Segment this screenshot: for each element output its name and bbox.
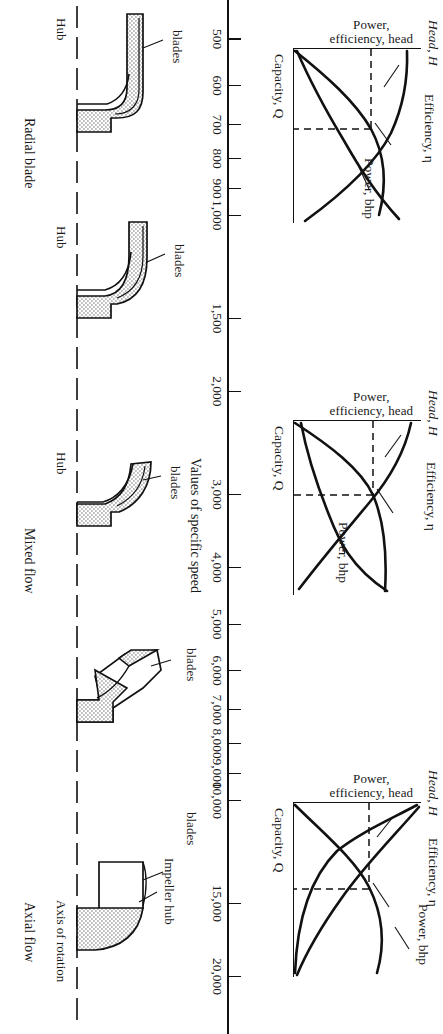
head-leader [377, 817, 393, 837]
blades-leader-r1 [143, 40, 163, 48]
blades-label-axial: blades [183, 812, 199, 845]
flow-label-mixed: Mixed flow [21, 528, 37, 594]
chart-mixed-flow: Power, efficiency, head Capacity, Q Head… [253, 382, 443, 612]
power-label-radial: Power, bhp [361, 158, 377, 219]
blades-label-mixed-1: blades [167, 466, 183, 499]
axis-tick-1500 [229, 318, 241, 319]
axis-tick-label-20000: 20,000 [209, 958, 225, 995]
axis-tick-label-3000: 3,000 [209, 479, 225, 509]
plot-area-radial [293, 48, 421, 223]
power-label-mixed: Power, bhp [335, 522, 351, 583]
axis-line [227, 0, 229, 1034]
x-axis-label-radial: Capacity, Q [271, 54, 287, 119]
axis-tick-600 [229, 85, 241, 86]
axis-tick-label-6000: 6,000 [209, 655, 225, 685]
axis-tick-label-8000: 8,000 [209, 728, 225, 758]
figure-root: Power, efficiency, head Capacity, Q Head… [0, 0, 443, 1034]
axis-tick-1000 [229, 215, 241, 216]
power-curve [297, 807, 419, 975]
flow-label-axial: Axial flow [21, 902, 37, 962]
chart-radial-blade: Power, efficiency, head Capacity, Q Head… [253, 10, 443, 240]
blades-label-mixed-2: blades [183, 648, 199, 681]
head-label-mixed: Head, H [425, 390, 441, 436]
axis-tick-label-1000: 1,000 [209, 200, 225, 230]
axis-tick-label-10000: 10,000 [209, 782, 225, 819]
axis-tick-label-600: 600 [209, 75, 225, 95]
plot-area-axial [293, 802, 421, 977]
plot-area-mixed [293, 420, 421, 595]
axis-tick-label-1500: 1,500 [209, 303, 225, 333]
axis-tick-500 [229, 38, 241, 39]
axis-tick-800 [229, 158, 241, 159]
axis-tick-700 [229, 124, 241, 125]
axis-tick-4000 [229, 567, 241, 568]
specific-speed-axis: 5006007008009001,0001,5002,0003,0004,000… [187, 0, 247, 1034]
axis-tick-9000 [229, 773, 241, 774]
curves-axial [293, 803, 421, 978]
head-leader [384, 65, 399, 87]
axis-tick-5000 [229, 624, 241, 625]
y-axis-label-radial: Power, efficiency, head [307, 18, 435, 45]
chart-axial-flow: Power, efficiency, head Capacity, Q Head… [253, 764, 443, 994]
hub-label-radial-1: Hub [53, 18, 69, 40]
axis-tick-label-900: 900 [209, 178, 225, 198]
axis-tick-label-800: 800 [209, 148, 225, 168]
efficiency-label-mixed: Efficiency, η [423, 462, 439, 531]
axis-tick-20000 [229, 976, 241, 977]
specific-speed-axis-title: Values of specific speed [187, 458, 203, 593]
axis-tick-label-2000: 2,000 [209, 376, 225, 406]
flow-label-radial: Radial blade [21, 118, 37, 188]
impeller-diagrams: Hub blades Hub blades Hub blades blades … [0, 0, 187, 1034]
axis-tick-label-700: 700 [209, 115, 225, 135]
impeller-hub-label-axial: Impeller hub [161, 858, 177, 925]
impeller-radial-1 [77, 14, 143, 132]
efficiency-label-axial: Efficiency, η [425, 838, 441, 907]
y-axis-label-axial: Power, efficiency, head [307, 772, 435, 799]
blades-label-radial-2: blades [171, 244, 187, 277]
axis-tick-7000 [229, 709, 241, 710]
axis-tick-3000 [229, 494, 241, 495]
impeller-radial-2 [77, 222, 147, 318]
axis-tick-label-15000: 15,000 [209, 885, 225, 922]
impeller-mixed-2 [77, 650, 161, 722]
impeller-mixed-1 [77, 462, 151, 526]
curves-mixed [293, 421, 421, 596]
axis-of-rotation-label: Axis of rotation [53, 900, 69, 982]
x-axis-label-axial: Capacity, Q [271, 808, 287, 873]
hub-label-mixed-1: Hub [53, 452, 69, 474]
axis-tick-10000 [229, 800, 241, 801]
blades-leader-r2 [147, 254, 165, 262]
efficiency-label-radial: Efficiency, η [421, 94, 437, 163]
head-label-radial: Head, H [425, 20, 441, 66]
pump-specific-speed-figure: Power, efficiency, head Capacity, Q Head… [0, 0, 443, 1034]
axis-tick-2000 [229, 391, 241, 392]
power-leader [395, 927, 409, 949]
axis-tick-label-500: 500 [209, 29, 225, 49]
hub-label-radial-2: Hub [53, 226, 69, 248]
axis-tick-8000 [229, 743, 241, 744]
axis-tick-15000 [229, 903, 241, 904]
head-label-axial: Head, H [425, 770, 441, 816]
y-axis-label-mixed: Power, efficiency, head [307, 390, 435, 417]
x-axis-label-mixed: Capacity, Q [271, 426, 287, 491]
axis-tick-6000 [229, 670, 241, 671]
axis-tick-label-7000: 7,000 [209, 695, 225, 725]
axis-tick-label-4000: 4,000 [209, 552, 225, 582]
curves-radial [293, 49, 421, 224]
axis-tick-label-5000: 5,000 [209, 609, 225, 639]
axis-tick-900 [229, 188, 241, 189]
impeller-axial-1 [77, 862, 146, 950]
power-label-axial: Power, bhp [415, 904, 431, 965]
blades-label-radial-1: blades [169, 30, 185, 63]
head-leader [385, 435, 401, 457]
